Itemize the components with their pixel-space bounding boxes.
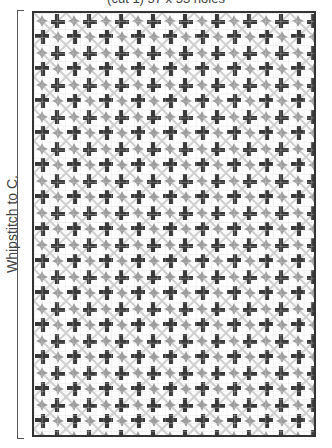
needlepoint-chart xyxy=(32,11,316,437)
stitch-pattern xyxy=(34,13,316,437)
piece-title: (cut 1) 37 x 53 holes xyxy=(0,0,332,6)
whipstitch-label: Whipstitch to C. xyxy=(4,175,20,273)
